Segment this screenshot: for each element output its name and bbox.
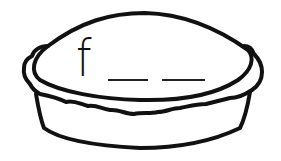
pie-top-crust bbox=[34, 13, 252, 100]
letter-blank-1[interactable] bbox=[108, 79, 148, 81]
pie-worksheet: f bbox=[0, 0, 281, 161]
letter-blank-2[interactable] bbox=[162, 79, 205, 81]
first-letter: f bbox=[76, 32, 92, 84]
